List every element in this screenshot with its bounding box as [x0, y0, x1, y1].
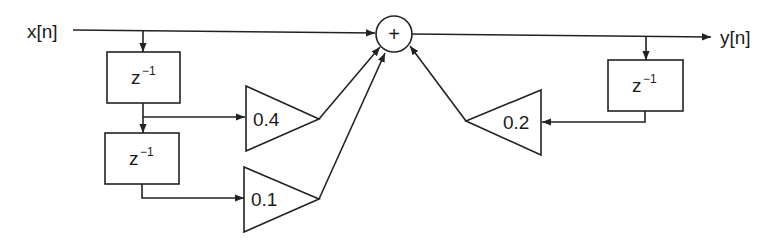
line-gain-0.1-to-adder: [319, 53, 385, 199]
output-signal-line: [412, 34, 711, 37]
gain-block-0.1: 0.1: [244, 167, 319, 232]
filter-block-diagram: x[n] z −1 z −1 0.4 0.1 + y[n]: [0, 0, 777, 252]
delay-y-base: z: [632, 75, 642, 96]
delay-block-x2: z −1: [105, 133, 179, 184]
delay-2-exponent: −1: [140, 145, 154, 159]
gain-0.1-value: 0.1: [251, 189, 277, 210]
line-to-gain-0.1: [142, 184, 244, 198]
gain-0.2-value: 0.2: [503, 112, 529, 133]
delay-1-exponent: −1: [142, 64, 156, 78]
adder-plus-sign: +: [388, 23, 400, 45]
delay-y-exponent: −1: [643, 72, 657, 86]
line-to-gain-0.2: [542, 111, 645, 122]
adder: +: [376, 16, 412, 52]
delay-block-x1: z −1: [107, 52, 180, 103]
input-signal-line: [73, 30, 375, 33]
output-label: y[n]: [720, 27, 751, 48]
gain-0.4-value: 0.4: [253, 109, 280, 130]
delay-2-base: z: [129, 148, 139, 169]
line-gain-0.2-to-adder: [410, 46, 466, 121]
gain-block-0.4: 0.4: [246, 86, 319, 151]
delay-1-base: z: [131, 67, 141, 88]
gain-block-0.2: 0.2: [466, 90, 541, 155]
delay-block-y1: z −1: [608, 60, 683, 111]
input-label: x[n]: [27, 21, 58, 42]
